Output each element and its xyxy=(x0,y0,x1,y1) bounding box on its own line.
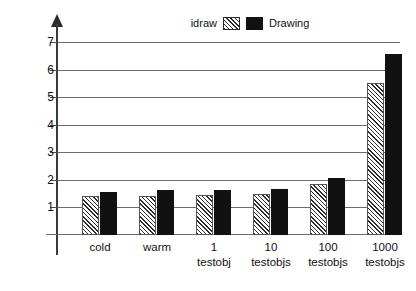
legend-item-idraw-label: idraw xyxy=(191,17,217,29)
x-axis-label-line1: 1000 xyxy=(372,241,398,253)
legend-swatch-drawing xyxy=(246,17,263,30)
legend-item-drawing-label: Drawing xyxy=(269,17,309,29)
x-axis-label-line2: testobjs xyxy=(349,255,416,270)
bar-drawing-warm xyxy=(157,190,174,235)
plot-area: 1234567 xyxy=(58,42,400,235)
bar-group xyxy=(82,42,118,235)
bar-idraw-warm xyxy=(139,196,156,235)
y-tick-label: 5 xyxy=(47,91,54,103)
bar-idraw-1000-testobjs xyxy=(367,83,384,235)
chart-legend: idraw Drawing xyxy=(150,14,350,32)
bar-idraw-cold xyxy=(82,196,99,235)
bar-group xyxy=(196,42,232,235)
x-axis-label: 1000testobjs xyxy=(349,240,416,270)
bar-drawing-100-testobjs xyxy=(328,178,345,235)
bar-groups xyxy=(58,42,400,235)
y-tick-label: 6 xyxy=(47,64,54,76)
bar-group xyxy=(253,42,289,235)
bar-drawing-cold xyxy=(100,192,117,235)
x-axis-label-line1: 10 xyxy=(265,241,278,253)
bar-drawing-1000-testobjs xyxy=(385,54,402,235)
x-axis-label-line1: cold xyxy=(89,241,110,253)
y-tick-label: 3 xyxy=(47,146,54,158)
bar-idraw-1-testobj xyxy=(196,195,213,235)
bar-idraw-10-testobjs xyxy=(253,194,270,235)
x-axis-label-line1: 100 xyxy=(318,241,337,253)
bar-drawing-1-testobj xyxy=(214,190,231,235)
y-tick-label: 1 xyxy=(47,201,54,213)
bar-chart: idraw Drawing Process Size (MB) 1234567 … xyxy=(0,0,416,291)
legend-swatch-idraw xyxy=(223,17,240,30)
y-tick-label: 4 xyxy=(47,119,54,131)
y-tick-label: 7 xyxy=(47,36,54,48)
y-tick-label: 2 xyxy=(47,174,54,186)
bar-idraw-100-testobjs xyxy=(310,184,327,235)
x-axis-labels: coldwarm1testobj10testobjs100testobjs100… xyxy=(58,240,400,288)
bar-drawing-10-testobjs xyxy=(271,189,288,235)
x-axis-label-line1: 1 xyxy=(211,241,217,253)
x-axis-label-line1: warm xyxy=(143,241,171,253)
bar-group xyxy=(139,42,175,235)
bar-group xyxy=(310,42,346,235)
bar-group xyxy=(367,42,403,235)
